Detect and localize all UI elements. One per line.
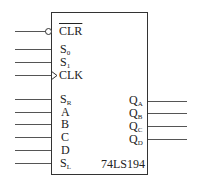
wire-clr: [15, 31, 46, 32]
wire-s0: [15, 49, 51, 50]
wire-s1: [15, 62, 51, 63]
pin-label-clr: CLR: [59, 25, 82, 37]
wire-sr: [15, 99, 51, 100]
wire-qd: [148, 139, 187, 140]
wire-c: [15, 137, 51, 138]
pin-label-c: C: [61, 131, 69, 143]
wire-d: [15, 150, 51, 151]
wire-b: [15, 124, 51, 125]
wire-qb: [148, 113, 187, 114]
chip-name-label: 74LS194: [101, 157, 145, 172]
pin-label-sl: SL: [60, 157, 71, 173]
clock-triangle-icon: [51, 71, 58, 80]
wire-qa: [148, 101, 187, 102]
wire-clk: [15, 75, 51, 76]
wire-qc: [148, 126, 187, 127]
inversion-bubble-icon: [45, 28, 52, 35]
wire-sl: [15, 163, 51, 164]
pin-label-b: B: [61, 118, 69, 130]
wire-a: [15, 112, 51, 113]
pin-label-d: D: [61, 144, 70, 156]
pin-label-qd: QD: [129, 133, 143, 149]
pin-label-clk: CLK: [59, 69, 83, 81]
